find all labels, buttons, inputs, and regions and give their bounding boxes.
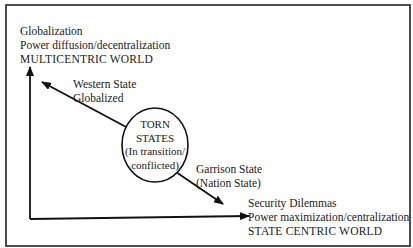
- garrison-state-label: Garrison State (Nation State): [196, 162, 262, 190]
- western-state-label: Western State Globalized: [73, 77, 136, 105]
- state-centric-world-text: STATE CENTRIC WORLD: [248, 224, 409, 238]
- power-diffusion-text: Power diffusion/decentralization: [20, 38, 170, 52]
- security-dilemmas-text: Security Dilemmas: [248, 196, 409, 210]
- states-text: STATES: [122, 132, 188, 146]
- horizontal-axis-arrow: [30, 216, 249, 219]
- torn-states-label: TORN STATES (In transition/ conflicted): [122, 118, 188, 172]
- garrison-state-text: Garrison State: [196, 162, 262, 176]
- multicentric-world-label: Globalization Power diffusion/decentrali…: [20, 24, 170, 66]
- state-centric-world-label: Security Dilemmas Power maximization/cen…: [248, 196, 409, 238]
- nation-state-text: (Nation State): [196, 176, 262, 190]
- western-state-text: Western State: [73, 77, 136, 91]
- in-transition-text: (In transition/: [122, 145, 188, 159]
- globalization-text: Globalization: [20, 24, 170, 38]
- conflicted-text: conflicted): [122, 159, 188, 173]
- power-maximization-text: Power maximization/centralization: [248, 210, 409, 224]
- multicentric-world-text: MULTICENTRIC WORLD: [20, 52, 170, 66]
- torn-text: TORN: [122, 118, 188, 132]
- globalized-text: Globalized: [73, 91, 136, 105]
